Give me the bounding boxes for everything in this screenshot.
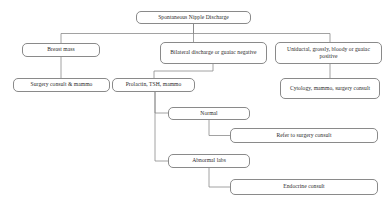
node-root[interactable]: Spontaneous Nipple Discharge [136,11,251,24]
node-bilateral[interactable]: Bilateral discharge or guaiac negative [160,42,267,64]
node-label-breast-mass: Breast mass [25,46,97,53]
connector-prolactin-to-abnormal-labs [155,92,168,161]
node-label-root: Spontaneous Nipple Discharge [139,14,248,21]
node-normal[interactable]: Normal [168,107,250,120]
node-label-refer-surgery: Refer to surgery consult [233,132,375,139]
node-prolactin[interactable]: Prolactin, TSH, mammo [112,78,195,92]
node-label-uniductal: Uniductal, grossly, bloody or guaiac pos… [278,46,379,61]
connector-normal-to-refer-surgery [209,120,230,136]
flowchart-canvas: Spontaneous Nipple DischargeBreast massB… [0,0,392,203]
node-label-abnormal-labs: Abnormal labs [171,157,247,164]
connector-bilateral-to-prolactin [154,64,213,78]
node-cytology[interactable]: Cytology, mammo, surgery consult [280,78,380,99]
node-label-endocrine: Endocrine consult [233,183,375,190]
node-endocrine[interactable]: Endocrine consult [230,179,378,195]
connector-root-to-breast-mass [61,24,194,43]
node-abnormal-labs[interactable]: Abnormal labs [168,154,250,168]
node-refer-surgery[interactable]: Refer to surgery consult [230,128,378,143]
node-label-surgery-mammo: Surgery consult & mammo [16,81,107,88]
node-label-normal: Normal [171,110,247,117]
connector-layer [0,0,392,203]
node-label-prolactin: Prolactin, TSH, mammo [115,81,192,88]
node-surgery-mammo[interactable]: Surgery consult & mammo [13,78,110,92]
connector-abnormal-labs-to-endocrine [209,168,230,187]
node-uniductal[interactable]: Uniductal, grossly, bloody or guaiac pos… [275,42,382,64]
node-label-cytology: Cytology, mammo, surgery consult [283,85,377,92]
node-breast-mass[interactable]: Breast mass [22,43,100,57]
connector-root-to-uniductal [194,24,331,42]
connector-prolactin-to-normal [155,92,168,113]
node-label-bilateral: Bilateral discharge or guaiac negative [163,49,264,56]
